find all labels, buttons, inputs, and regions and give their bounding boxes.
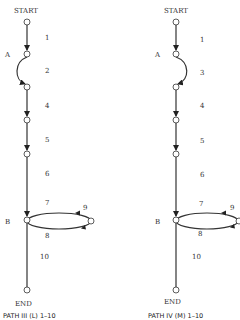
edge-label: 2: [45, 67, 49, 75]
node-a-label: A: [154, 51, 161, 59]
edge-label: 5: [200, 137, 204, 145]
loop-node: [236, 218, 240, 224]
node-a-label: A: [4, 51, 11, 59]
node: [24, 84, 30, 90]
node: [24, 117, 30, 123]
node-b-label: B: [5, 218, 10, 226]
node: [173, 151, 179, 157]
edge-label: 5: [45, 136, 49, 144]
start-label: START: [164, 7, 188, 15]
start-label: START: [14, 7, 38, 15]
edge-label: 9: [83, 204, 87, 212]
node: [24, 151, 30, 157]
end-label: END: [164, 298, 181, 306]
end-node: [24, 287, 30, 293]
node: [173, 117, 179, 123]
start-node: [173, 19, 179, 25]
loop-node: [88, 218, 94, 224]
edge-label: 4: [45, 102, 50, 110]
path-iv-diagram: START A B 1 3 4 5 6 7 8 9 10 END PATH IV…: [148, 7, 240, 320]
edge-label: 7: [199, 200, 203, 208]
node-b: [173, 217, 179, 223]
node-a: [173, 51, 179, 57]
node-b-label: B: [155, 218, 160, 226]
node-a: [24, 51, 30, 57]
edge-label: 10: [192, 253, 201, 261]
edge-label: 1: [45, 34, 49, 42]
edge-label: 8: [45, 232, 49, 240]
edge-label: 9: [230, 204, 234, 212]
edge-label: 6: [45, 170, 50, 178]
path-iii-diagram: START A B 1 2 4 5 6 7 8 9 10 END: [3, 7, 94, 320]
node: [173, 84, 179, 90]
edge-label: 6: [200, 171, 205, 179]
path-diagrams: START A B 1 2 4 5 6 7 8 9 10 END: [0, 0, 240, 320]
edge-label: 3: [200, 69, 204, 77]
end-node: [173, 287, 179, 293]
node-b: [24, 217, 30, 223]
caption: PATH IV (M) 1–10: [148, 312, 203, 320]
edge-label: 8: [198, 230, 202, 238]
edge-label: 10: [40, 253, 49, 261]
caption: PATH III (L) 1–10: [3, 312, 56, 320]
edge-label: 4: [200, 102, 205, 110]
edge-label: 7: [45, 199, 49, 207]
end-label: END: [15, 300, 32, 308]
start-node: [24, 19, 30, 25]
edge-label: 1: [200, 36, 204, 44]
